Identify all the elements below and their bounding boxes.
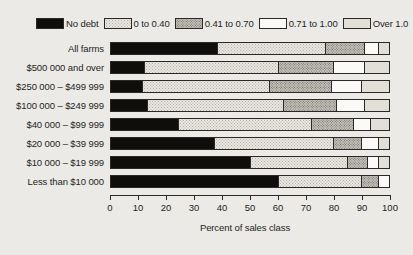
legend-swatch-no-debt [36, 18, 64, 29]
bar-row [110, 80, 390, 93]
bar-segment-r0_40 [144, 62, 277, 73]
bar-segment-r41_70 [325, 43, 364, 54]
plot-area [110, 42, 390, 195]
legend-label-0-to-0-40: 0 to 0.40 [132, 18, 175, 29]
chart-legend: No debt 0 to 0.40 0.41 to 0.70 0.71 to 1… [36, 17, 413, 30]
x-axis-tick [334, 195, 335, 200]
bar-segment-nodebt [111, 100, 147, 111]
stacked-bar [110, 175, 390, 188]
bar-segment-nodebt [111, 119, 178, 130]
bar-segment-nodebt [111, 138, 214, 149]
bar-segment-nodebt [111, 157, 250, 168]
legend-item-over-1-0: Over 1.0 [343, 17, 413, 30]
bar-segment-nodebt [111, 81, 142, 92]
x-axis-tick-label: 70 [301, 202, 312, 213]
y-axis-label: $500 000 and over [0, 61, 104, 74]
bar-row [110, 42, 390, 55]
x-axis-tick-label: 100 [382, 202, 398, 213]
y-axis-label: $40 000 – $99 999 [0, 118, 104, 131]
bar-segment-over1 [364, 62, 389, 73]
bar-segment-r71_100 [333, 62, 364, 73]
bar-segment-r41_70 [283, 100, 336, 111]
bar-segment-r0_40 [147, 100, 283, 111]
bar-segment-r71_100 [361, 138, 378, 149]
bar-segment-r41_70 [333, 138, 361, 149]
legend-swatch-0-71-to-1-00 [259, 18, 287, 29]
legend-label-0-71-to-1-00: 0.71 to 1.00 [287, 18, 343, 29]
x-axis-title: Percent of sales class [0, 222, 406, 233]
legend-swatch-over-1-0 [343, 18, 371, 29]
bar-row [110, 156, 390, 169]
bar-segment-r71_100 [353, 119, 370, 130]
stacked-bar [110, 42, 390, 55]
x-axis-tick [278, 195, 279, 200]
legend-label-over-1-0: Over 1.0 [371, 18, 413, 29]
stacked-bar [110, 61, 390, 74]
bar-row [110, 118, 390, 131]
x-axis-tick-label: 60 [273, 202, 284, 213]
x-axis-tick-label: 90 [357, 202, 368, 213]
x-axis-tick [362, 195, 363, 200]
y-axis-label: $20 000 – $39 999 [0, 137, 104, 150]
bar-segment-r41_70 [269, 81, 330, 92]
x-axis-tick-label: 50 [245, 202, 256, 213]
legend-label-no-debt: No debt [64, 18, 104, 29]
bar-segment-r41_70 [311, 119, 353, 130]
y-axis-label: $100 000 – $249 999 [0, 99, 104, 112]
bar-row [110, 61, 390, 74]
x-axis-tick-label: 30 [189, 202, 200, 213]
bar-segment-r41_70 [278, 62, 334, 73]
bar-segment-r0_40 [178, 119, 311, 130]
bar-segment-r41_70 [361, 176, 378, 187]
bar-segment-r41_70 [347, 157, 366, 168]
bar-segment-over1 [378, 138, 389, 149]
y-axis-category-labels: All farms$500 000 and over$250 000 – $49… [0, 42, 104, 195]
x-axis-tick [250, 195, 251, 200]
legend-item-0-to-0-40: 0 to 0.40 [104, 17, 175, 30]
bar-row [110, 175, 390, 188]
legend-swatch-0-to-0-40 [104, 18, 132, 29]
bar-segment-over1 [364, 100, 389, 111]
y-axis-label: Less than $10 000 [0, 175, 104, 188]
bar-segment-r0_40 [250, 157, 347, 168]
x-axis-tick-label: 20 [161, 202, 172, 213]
bar-segment-r71_100 [336, 100, 364, 111]
x-axis-tick [306, 195, 307, 200]
x-axis-title-text: Percent of sales class [200, 222, 290, 233]
legend-item-0-41-to-0-70: 0.41 to 0.70 [175, 17, 259, 30]
y-axis-label: $250 000 – $499 999 [0, 80, 104, 93]
bar-segment-r0_40 [214, 138, 334, 149]
legend-item-0-71-to-1-00: 0.71 to 1.00 [259, 17, 343, 30]
stacked-bar [110, 99, 390, 112]
y-axis-label: $10 000 – $19 999 [0, 156, 104, 169]
x-axis-tick [110, 195, 111, 200]
bar-row [110, 137, 390, 150]
bar-segment-over1 [378, 43, 389, 54]
bar-segment-r71_100 [378, 176, 389, 187]
bar-segment-over1 [370, 119, 389, 130]
bar-segment-r71_100 [331, 81, 362, 92]
y-axis-label: All farms [0, 42, 104, 55]
x-axis-tick [138, 195, 139, 200]
bar-segment-over1 [378, 157, 389, 168]
stacked-bar [110, 118, 390, 131]
bar-segment-r71_100 [364, 43, 378, 54]
legend-swatch-0-41-to-0-70 [175, 18, 203, 29]
x-axis-tick [194, 195, 195, 200]
x-axis-tick [166, 195, 167, 200]
stacked-bar [110, 137, 390, 150]
x-axis-tick-label: 40 [217, 202, 228, 213]
legend-item-no-debt: No debt [36, 17, 104, 30]
bar-segment-r71_100 [367, 157, 378, 168]
x-axis-tick [222, 195, 223, 200]
bar-segment-nodebt [111, 43, 217, 54]
x-axis-tick-label: 10 [133, 202, 144, 213]
stacked-bar [110, 80, 390, 93]
x-axis-tick [390, 195, 391, 200]
bar-segment-r0_40 [142, 81, 270, 92]
stacked-bar [110, 156, 390, 169]
x-axis-tick-label: 0 [107, 202, 112, 213]
bar-segment-nodebt [111, 176, 278, 187]
bar-segment-over1 [361, 81, 389, 92]
